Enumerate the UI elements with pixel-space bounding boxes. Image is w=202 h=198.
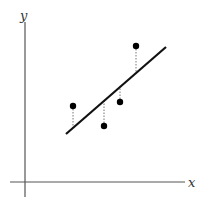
- data-point: [133, 43, 139, 49]
- x-axis-label: x: [188, 175, 196, 190]
- residual-lines: [73, 46, 136, 128]
- data-point: [117, 99, 123, 105]
- regression-line: [66, 47, 166, 134]
- y-axis-label: y: [19, 8, 28, 23]
- data-point: [101, 123, 107, 129]
- regression-diagram: y x: [0, 0, 202, 198]
- data-point: [70, 103, 76, 109]
